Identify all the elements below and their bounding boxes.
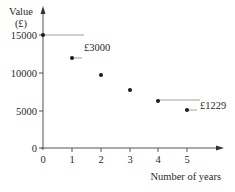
annotations: £3000 £1229 [43, 35, 226, 111]
data-point [185, 108, 189, 112]
x-tick-label: 2 [98, 154, 103, 165]
annotation-year5-drop: £1229 [200, 100, 226, 111]
y-tick-label: 0 [32, 143, 37, 154]
data-point [99, 73, 103, 77]
y-axis-title-line1: Value [9, 6, 33, 17]
data-point [70, 56, 74, 60]
y-tick-label: 15000 [11, 30, 37, 41]
y-axis-arrow-icon [41, 6, 46, 14]
y-axis: Value (£) 0 5000 10000 15000 [9, 6, 45, 154]
depreciation-chart: Value (£) 0 5000 10000 15000 0 1 2 3 4 [0, 0, 235, 192]
annotation-year1-drop: £3000 [84, 42, 110, 53]
y-axis-title-line2: (£) [15, 18, 28, 30]
x-axis-arrow-icon [216, 146, 224, 151]
x-tick-label: 1 [69, 154, 74, 165]
x-tick-label: 3 [127, 154, 132, 165]
data-point [128, 88, 132, 92]
x-tick-label: 5 [184, 154, 189, 165]
y-tick-label: 10000 [11, 68, 37, 79]
data-point [156, 99, 160, 103]
x-axis: 0 1 2 3 4 5 Number of years [40, 146, 224, 183]
x-tick-label: 0 [40, 154, 45, 165]
x-tick-label: 4 [155, 154, 161, 165]
y-tick-label: 5000 [16, 106, 37, 117]
x-axis-title: Number of years [150, 171, 221, 182]
data-point [41, 33, 45, 37]
